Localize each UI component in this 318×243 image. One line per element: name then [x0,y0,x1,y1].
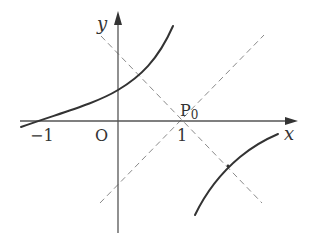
tick-label-neg-one: −1 [30,126,54,145]
coordinate-diagram: y x O −1 1 P0 [0,0,318,243]
intersection-point [227,165,230,168]
curve-upper-left-branch [21,26,173,127]
y-axis-arrow-icon [114,11,122,25]
y-axis-label: y [96,13,108,34]
point-p0-label: P0 [180,101,198,122]
origin-label: O [95,126,108,145]
tick-label-one: 1 [177,126,187,145]
x-axis-label: x [284,123,294,144]
point-p0-main: P [180,101,191,120]
point-p0-subscript: 0 [191,108,199,122]
